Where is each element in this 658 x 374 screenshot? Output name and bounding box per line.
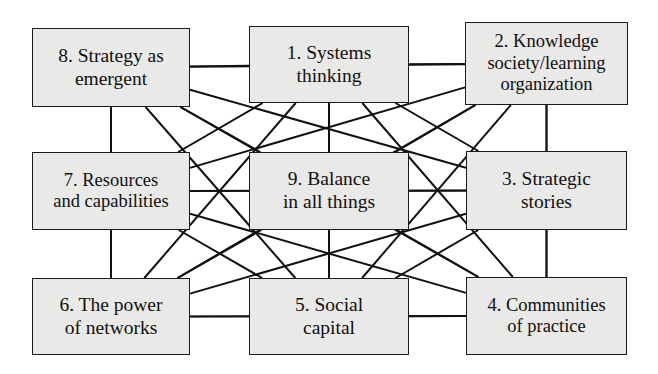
node-box-5[interactable]: 5. Social capital	[249, 278, 409, 355]
node-label-1: 1. Systems thinking	[254, 42, 404, 87]
node-box-3[interactable]: 3. Strategic stories	[466, 151, 627, 230]
node-box-6[interactable]: 6. The power of networks	[32, 278, 190, 355]
node-label-4: 4. Communities of practice	[471, 295, 622, 338]
node-label-3: 3. Strategic stories	[471, 168, 622, 213]
node-box-2[interactable]: 2. Knowledge society/learning organizati…	[465, 22, 628, 105]
node-box-9[interactable]: 9. Balance in all things	[249, 152, 409, 230]
node-label-8: 8. Strategy as emergent	[37, 45, 185, 90]
diagram-canvas: 1. Systems thinking2. Knowledge society/…	[0, 0, 658, 374]
node-label-6: 6. The power of networks	[37, 294, 185, 339]
node-box-7[interactable]: 7. Resources and capabilities	[32, 152, 190, 230]
node-box-8[interactable]: 8. Strategy as emergent	[32, 28, 190, 107]
node-box-1[interactable]: 1. Systems thinking	[249, 26, 409, 103]
node-label-2: 2. Knowledge society/learning organizati…	[470, 31, 623, 95]
edge-1-7	[178, 103, 262, 152]
node-label-9: 9. Balance in all things	[254, 168, 404, 213]
node-label-7: 7. Resources and capabilities	[37, 170, 185, 213]
node-label-5: 5. Social capital	[254, 294, 404, 339]
node-box-4[interactable]: 4. Communities of practice	[466, 277, 627, 355]
